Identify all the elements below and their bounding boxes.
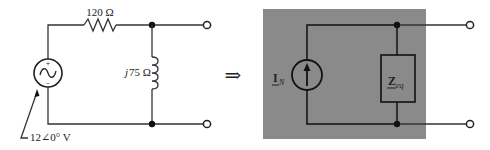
source-plus-sign: +	[46, 59, 51, 68]
wire-bottom	[48, 87, 203, 124]
original-circuit: + − 120 Ω j 75 Ω 12∠0° V	[21, 6, 211, 143]
transform-arrow-icon: ⇒	[225, 64, 242, 86]
circuit-diagram: + − 120 Ω j 75 Ω 12∠0° V ⇒ I	[0, 0, 490, 150]
bottom-node-dot	[149, 121, 155, 127]
zeq-label-main: Z	[388, 74, 396, 88]
norton-equivalent: I N Z eq	[263, 9, 474, 139]
current-source-label-sub: N	[278, 78, 285, 87]
current-source-label-main: I	[273, 71, 278, 85]
inductor-label-j: j	[123, 66, 128, 78]
norton-bottom-terminal[interactable]	[466, 120, 473, 127]
zeq-label-sub: eq	[396, 81, 404, 90]
norton-bottom-node-dot	[394, 121, 400, 127]
top-terminal[interactable]	[203, 21, 210, 28]
resistor-label: 120 Ω	[86, 6, 113, 18]
arrowhead-icon	[35, 89, 40, 97]
source-label: 12∠0° V	[30, 131, 71, 143]
norton-top-terminal[interactable]	[466, 21, 473, 28]
inductor-j75-ohm	[152, 57, 158, 89]
resistor-120-ohm	[84, 19, 116, 31]
source-minus-sign: −	[46, 79, 51, 88]
equivalent-box	[263, 9, 426, 139]
inductor-label-value: 75 Ω	[129, 66, 151, 78]
wire-top-left	[48, 25, 84, 59]
bottom-terminal[interactable]	[203, 120, 210, 127]
norton-top-node-dot	[394, 22, 400, 28]
